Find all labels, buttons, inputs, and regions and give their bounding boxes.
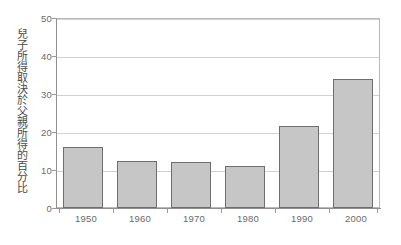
bar-1990[interactable] (279, 126, 319, 208)
bar-2000[interactable] (333, 79, 373, 208)
y-tick-label: 40 (26, 51, 52, 62)
bar-1980[interactable] (225, 166, 265, 208)
y-tick-mark (52, 56, 57, 57)
bars-layer (56, 18, 380, 208)
x-tick-mark (329, 209, 330, 213)
y-tick-mark (52, 170, 57, 171)
x-tick-label-1990: 1990 (291, 213, 313, 224)
bar-1960[interactable] (117, 161, 157, 209)
x-tick-mark (275, 209, 276, 213)
bar-1950[interactable] (63, 147, 103, 208)
x-tick-mark (59, 209, 60, 213)
y-axis-tick-labels: 50 40 30 20 10 0 (22, 18, 52, 208)
y-tick-mark (52, 94, 57, 95)
x-tick-label-2000: 2000 (345, 213, 367, 224)
y-tick-label: 50 (26, 13, 52, 24)
bar-1970[interactable] (171, 162, 211, 208)
x-tick-label-1950: 1950 (75, 213, 97, 224)
x-tick-label-1980: 1980 (237, 213, 259, 224)
y-tick-label: 0 (26, 203, 52, 214)
y-tick-mark (52, 18, 57, 19)
x-tick-mark (113, 209, 114, 213)
x-tick-mark (221, 209, 222, 213)
x-tick-mark (167, 209, 168, 213)
bar-chart-figure: 兒子所得取決於父親所得的百分比 50 40 30 20 10 0 (0, 0, 401, 245)
x-tick-label-1960: 1960 (129, 213, 151, 224)
x-tick-label-1970: 1970 (183, 213, 205, 224)
y-tick-mark (52, 132, 57, 133)
x-tick-mark (377, 209, 378, 213)
y-tick-label: 20 (26, 127, 52, 138)
y-tick-label: 30 (26, 89, 52, 100)
x-axis-tick-labels: 1950 1960 1970 1980 1990 2000 (56, 209, 380, 229)
y-tick-label: 10 (26, 165, 52, 176)
